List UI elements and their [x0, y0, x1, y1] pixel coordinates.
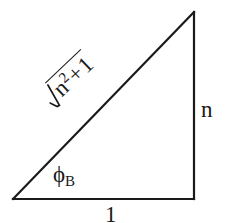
vertical-leg-label-text: n: [201, 97, 213, 122]
triangle-drawing: [0, 0, 229, 223]
triangle-side-hypotenuse: [13, 12, 194, 199]
base-label-text: 1: [105, 202, 117, 223]
base-label: 1: [105, 203, 117, 223]
angle-label-phi-b: ϕB: [53, 163, 75, 189]
phi-subscript-b: B: [65, 173, 75, 189]
figure-canvas: n 1 ϕB n2+1: [0, 0, 229, 223]
phi-symbol: ϕ: [53, 162, 65, 187]
vertical-leg-label: n: [201, 98, 213, 121]
